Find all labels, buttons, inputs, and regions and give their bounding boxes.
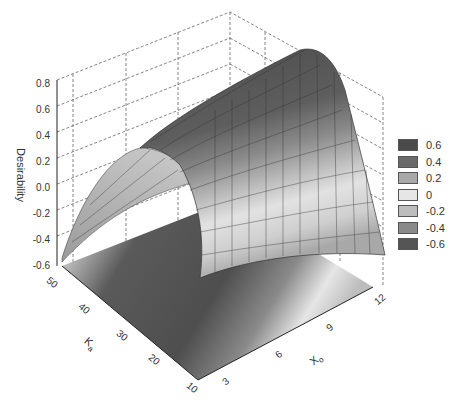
y-axis-label: Ka (80, 335, 99, 354)
svg-text:3: 3 (220, 375, 232, 387)
svg-text:9: 9 (324, 321, 336, 333)
surface-plot: 0.8 0.6 0.4 0.2 0.0 -0.2 -0.4 -0.6 Desir… (0, 0, 454, 405)
svg-text:-0.2: -0.2 (33, 208, 51, 219)
legend-swatch (398, 189, 418, 201)
svg-text:0.2: 0.2 (36, 156, 50, 167)
svg-text:0.8: 0.8 (36, 78, 50, 89)
z-axis-label: Desirability (15, 148, 27, 202)
svg-text:40: 40 (76, 301, 92, 317)
svg-text:-0.6: -0.6 (33, 260, 51, 271)
x-axis-label: Xo (307, 350, 326, 369)
legend-swatch (398, 172, 418, 184)
svg-text:50: 50 (44, 275, 60, 291)
legend-swatch (398, 139, 418, 151)
svg-text:-0.4: -0.4 (33, 234, 51, 245)
legend-item: 0.2 (398, 170, 445, 187)
svg-text:12: 12 (372, 291, 388, 307)
legend-item: -0.2 (398, 203, 445, 220)
legend: 0.6 0.4 0.2 0 -0.2 -0.4 -0.6 (398, 137, 445, 253)
legend-item: 0.6 (398, 137, 445, 154)
legend-swatch (398, 156, 418, 168)
legend-item: -0.6 (398, 236, 445, 253)
svg-text:6: 6 (273, 348, 285, 360)
legend-item: 0 (398, 187, 445, 204)
legend-item: -0.4 (398, 220, 445, 237)
legend-item: 0.4 (398, 154, 445, 171)
legend-swatch (398, 205, 418, 217)
legend-swatch (398, 222, 418, 234)
svg-text:30: 30 (114, 328, 130, 344)
svg-text:0.4: 0.4 (36, 130, 50, 141)
svg-text:10: 10 (184, 380, 200, 396)
svg-text:0.6: 0.6 (36, 104, 50, 115)
legend-swatch (398, 238, 418, 250)
svg-text:0.0: 0.0 (36, 182, 50, 193)
z-axis-ticks: 0.8 0.6 0.4 0.2 0.0 -0.2 -0.4 -0.6 (33, 78, 51, 271)
svg-text:20: 20 (146, 352, 162, 368)
